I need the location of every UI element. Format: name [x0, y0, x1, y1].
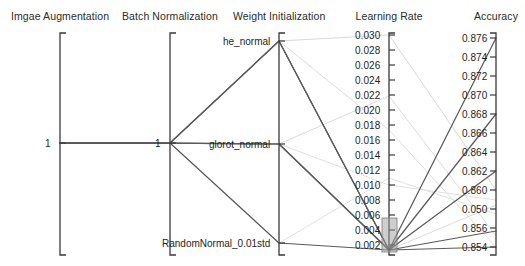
tick-label: 0.854: [462, 242, 487, 253]
tick-label: 0.870: [462, 90, 487, 101]
brush-layer[interactable]: [382, 218, 397, 252]
brush-selection[interactable]: [382, 218, 397, 252]
tick-label: 0.026: [355, 60, 380, 71]
parallel-coordinates-chart: Imgae AugmentationBatch NormalizationWei…: [0, 0, 525, 266]
tick-label: 0.856: [462, 223, 487, 234]
tick-label: 1: [45, 138, 51, 149]
axis-title: Learning Rate: [356, 10, 423, 22]
tick-label: 0.020: [355, 105, 380, 116]
tick-label: 0.876: [462, 33, 487, 44]
series-line: [60, 96, 496, 236]
tick-label: RandomNormal_0.01std: [162, 238, 270, 249]
tick-label: glorot_normal: [209, 139, 270, 150]
tick-label: 0.014: [355, 150, 380, 161]
tick-label: 1: [155, 138, 161, 149]
tick-label: 0.028: [355, 45, 380, 56]
tick-label: 0.868: [462, 109, 487, 120]
axis-title: Imgae Augmentation: [11, 10, 109, 22]
axis-title: Accuracy: [474, 10, 518, 22]
tick-label: 0.862: [462, 166, 487, 177]
axis-title: Batch Normalization: [122, 10, 218, 22]
tick-label: 0.866: [462, 128, 487, 139]
tick-label: 0.030: [355, 30, 380, 41]
axis-line[interactable]: [60, 33, 66, 255]
tick-label: 0.022: [355, 90, 380, 101]
tick-label: 0.006: [355, 210, 380, 221]
tick-label: 0.016: [355, 135, 380, 146]
tick-label: 0.002: [355, 240, 380, 251]
axis-line[interactable]: [490, 33, 496, 255]
tick-label: 0.860: [462, 185, 487, 196]
series-line: [60, 143, 496, 243]
axis-title: Weight Initialization: [233, 10, 325, 22]
tick-label: 0.010: [355, 180, 380, 191]
tick-label: 0.008: [355, 195, 380, 206]
tick-label: 0.874: [462, 52, 487, 63]
tick-label: 0.018: [355, 120, 380, 131]
series-line: [60, 143, 496, 200]
tick-label: 0.024: [355, 75, 380, 86]
tick-label: he_normal: [223, 36, 270, 47]
selected-lines-layer: [60, 38, 496, 250]
tick-label: 0.004: [355, 225, 380, 236]
tick-label: 0.050: [462, 204, 487, 215]
tick-label: 0.864: [462, 147, 487, 158]
tick-label: 0.012: [355, 165, 380, 176]
tick-label: 0.872: [462, 71, 487, 82]
